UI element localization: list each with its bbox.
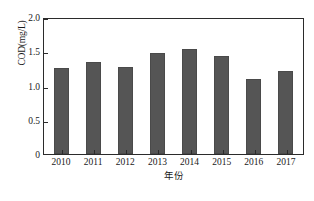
x-axis-tick-mark	[191, 150, 192, 154]
x-axis-tick-label-group: 20102011201220132014201520162017	[43, 157, 304, 168]
bar-slot	[110, 19, 142, 154]
x-axis-tick-label: 2017	[270, 157, 302, 168]
x-axis-tick-label: 2016	[238, 157, 270, 168]
y-axis-tick-mark	[44, 53, 48, 54]
x-axis-tick-label: 2013	[141, 157, 173, 168]
y-axis-tick-label-group: 00.51.01.52.0	[14, 0, 40, 201]
y-axis-tick-label: 1.0	[28, 82, 40, 92]
bar-series-COD	[44, 19, 303, 154]
x-axis-tick-label: 2015	[206, 157, 238, 168]
bar-slot	[78, 19, 110, 154]
x-axis-tick-mark	[255, 150, 256, 154]
x-axis-tick-label: 2014	[174, 157, 206, 168]
bar-slot	[205, 19, 237, 154]
plot-area	[43, 18, 304, 155]
bar[interactable]	[118, 67, 133, 154]
y-axis-tick-mark	[44, 122, 48, 123]
x-axis-tick-mark	[158, 150, 159, 154]
y-axis-tick-label: 0	[35, 150, 40, 160]
bar[interactable]	[182, 49, 197, 154]
y-axis-tick-mark	[44, 19, 48, 20]
bar[interactable]	[86, 62, 101, 154]
bar[interactable]	[150, 53, 165, 154]
bar-chart-figure: COD(mg/L) 00.51.01.52.0 2010201120122013…	[0, 0, 314, 201]
y-axis-tick-label: 2.0	[28, 13, 40, 23]
bar[interactable]	[246, 79, 261, 154]
bar[interactable]	[214, 56, 229, 154]
x-axis-tick-mark	[62, 150, 63, 154]
y-axis-tick-label: 0.5	[28, 116, 40, 126]
bar-slot	[269, 19, 301, 154]
x-axis-tick-mark	[287, 150, 288, 154]
x-axis-tick-label: 2012	[109, 157, 141, 168]
y-axis-tick-label: 1.5	[28, 47, 40, 57]
x-axis-title: 年份	[43, 171, 304, 182]
x-axis-tick-mark	[94, 150, 95, 154]
x-axis-tick-mark	[126, 150, 127, 154]
x-axis-tick-mark	[223, 150, 224, 154]
bar-slot	[46, 19, 78, 154]
bar[interactable]	[54, 68, 69, 154]
y-axis-tick-mark	[44, 88, 48, 89]
bar-slot	[142, 19, 174, 154]
x-axis-tick-label: 2010	[45, 157, 77, 168]
x-axis-tick-label: 2011	[77, 157, 109, 168]
bar-slot	[237, 19, 269, 154]
bar[interactable]	[278, 71, 293, 154]
bar-slot	[174, 19, 206, 154]
